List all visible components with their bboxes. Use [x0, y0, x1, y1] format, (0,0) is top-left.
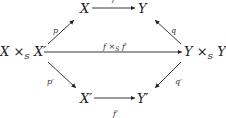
node-Y: Y: [138, 2, 147, 15]
node-text: Y′: [213, 44, 226, 59]
label-p: p: [53, 27, 58, 35]
label-text: f ×: [103, 42, 115, 51]
arrow-q: [155, 20, 181, 44]
node-X: X: [80, 2, 89, 15]
label-p-prime: p′: [47, 78, 54, 86]
label-f: f: [112, 0, 115, 3]
label-q-prime: q′: [175, 78, 182, 86]
node-text: Y ×: [184, 44, 208, 59]
node-text: X′: [30, 44, 46, 59]
node-X-prime: X′: [80, 92, 92, 105]
node-X-times-S-X-prime: X ×S X′: [0, 45, 46, 63]
label-text: f′: [119, 42, 126, 51]
node-Y-prime: Y′: [137, 92, 149, 105]
arrow-p: [48, 20, 74, 44]
label-f-times-S-f-prime: f ×S f′: [103, 43, 127, 53]
label-f-prime: f′: [113, 110, 118, 118]
node-text: X ×: [0, 44, 24, 59]
label-q: q: [171, 27, 176, 35]
node-Y-times-S-Y-prime: Y ×S Y′: [184, 45, 226, 63]
